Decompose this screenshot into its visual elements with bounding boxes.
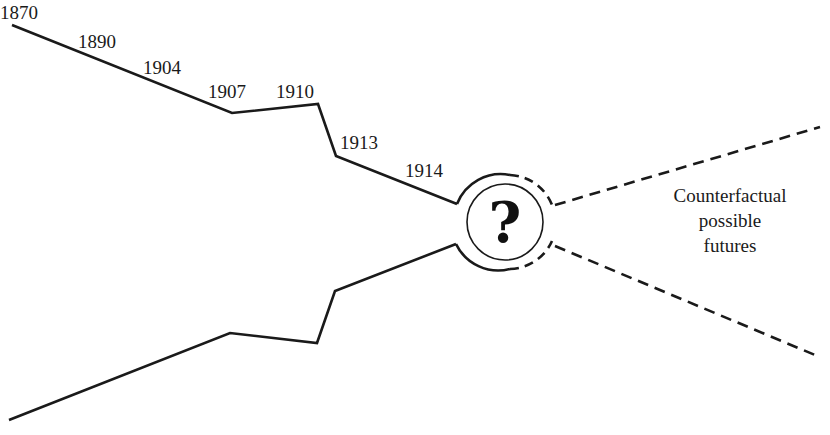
year-label-1890: 1890 xyxy=(78,32,116,51)
year-label-1870: 1870 xyxy=(0,3,38,22)
year-label-1914: 1914 xyxy=(405,161,443,180)
year-label-1913: 1913 xyxy=(340,133,378,152)
counterfactual-caption: Counterfactual possible futures xyxy=(640,183,820,258)
caption-line-2: possible xyxy=(640,208,820,233)
year-label-1904: 1904 xyxy=(143,58,181,77)
caption-line-1: Counterfactual xyxy=(640,183,820,208)
year-label-1910: 1910 xyxy=(276,82,314,101)
question-mark-icon: ? xyxy=(467,184,543,260)
caption-line-3: futures xyxy=(640,233,820,258)
lower-history-line xyxy=(9,244,456,420)
year-label-1907: 1907 xyxy=(208,82,246,101)
future-line-lower xyxy=(555,246,815,355)
